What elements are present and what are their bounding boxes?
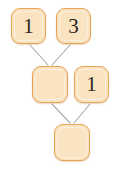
node-inner-bevel: [57, 127, 87, 158]
connector-line: [74, 104, 90, 123]
connector-line: [30, 45, 48, 65]
node-middle-right[interactable]: 1: [74, 66, 109, 103]
node-top-right[interactable]: 3: [56, 8, 91, 44]
node-label: 1: [86, 74, 97, 95]
node-top-left[interactable]: 1: [11, 8, 46, 44]
node-middle-left[interactable]: [32, 66, 68, 103]
node-inner-bevel: [35, 69, 65, 100]
node-bottom-center[interactable]: [54, 124, 90, 161]
connector-line: [52, 45, 70, 65]
diagram-canvas: 1 3 1: [0, 0, 114, 173]
node-label: 1: [23, 16, 34, 37]
connector-line: [52, 104, 70, 123]
node-label: 3: [68, 16, 79, 37]
